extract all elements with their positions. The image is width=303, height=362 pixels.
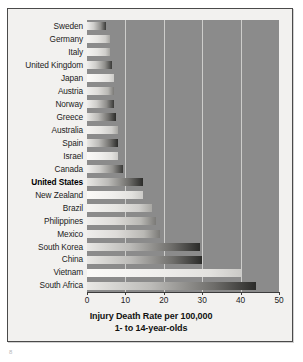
bar — [87, 217, 156, 225]
bar — [87, 230, 160, 238]
bar — [87, 100, 114, 108]
bar — [87, 282, 256, 290]
bar-row — [87, 72, 279, 85]
chart-figure-frame: SwedenGermanyItalyUnited KingdomJapanAus… — [7, 8, 293, 342]
plot-area — [87, 20, 279, 292]
category-label: United Kingdom — [8, 59, 87, 72]
axis-tick-label: 0 — [85, 296, 90, 304]
chart-plot-body: SwedenGermanyItalyUnited KingdomJapanAus… — [8, 9, 294, 299]
category-label: United States — [8, 175, 87, 188]
bar — [87, 35, 110, 43]
bar-row — [87, 279, 279, 292]
category-label: Japan — [8, 72, 87, 85]
category-label: Vietnam — [8, 266, 87, 279]
bar-row — [87, 150, 279, 163]
bars-layer — [87, 20, 279, 292]
category-label: Brazil — [8, 201, 87, 214]
value-axis-title: Injury Death Rate per 100,000 1- to 14-y… — [8, 310, 294, 334]
category-label: Mexico — [8, 227, 87, 240]
bar — [87, 243, 200, 251]
page-footer-mark: 8 — [9, 349, 12, 355]
category-label: South Africa — [8, 279, 87, 292]
category-label: Germany — [8, 33, 87, 46]
bar-row — [87, 162, 279, 175]
bar-row — [87, 175, 279, 188]
category-label: New Zealand — [8, 188, 87, 201]
category-axis-labels: SwedenGermanyItalyUnited KingdomJapanAus… — [8, 20, 87, 292]
axis-tick-label: 10 — [121, 296, 130, 304]
bar-row — [87, 85, 279, 98]
bar — [87, 191, 143, 199]
value-axis-rule — [87, 292, 279, 293]
bar — [87, 61, 112, 69]
bar-row — [87, 59, 279, 72]
category-label: China — [8, 253, 87, 266]
bar — [87, 256, 202, 264]
bar-row — [87, 46, 279, 59]
bar — [87, 74, 114, 82]
axis-tick-label: 50 — [274, 296, 283, 304]
bar — [87, 113, 116, 121]
bar — [87, 178, 143, 186]
bar-row — [87, 124, 279, 137]
bar-row — [87, 98, 279, 111]
bar-row — [87, 240, 279, 253]
category-label: Austria — [8, 85, 87, 98]
bar — [87, 126, 118, 134]
category-label: Philippines — [8, 214, 87, 227]
category-label: South Korea — [8, 240, 87, 253]
bar-row — [87, 33, 279, 46]
bar — [87, 22, 106, 30]
category-label: Italy — [8, 46, 87, 59]
bar-row — [87, 201, 279, 214]
bar — [87, 204, 152, 212]
axis-tick-label: 30 — [198, 296, 207, 304]
category-label: Sweden — [8, 20, 87, 33]
bar-row — [87, 214, 279, 227]
bar-row — [87, 20, 279, 33]
bar-row — [87, 111, 279, 124]
bar — [87, 48, 110, 56]
category-label: Israel — [8, 150, 87, 163]
category-label: Spain — [8, 137, 87, 150]
axis-tick-label: 20 — [159, 296, 168, 304]
bar — [87, 139, 118, 147]
axis-tick-label: 40 — [236, 296, 245, 304]
axis-title-line-1: Injury Death Rate per 100,000 — [8, 310, 294, 322]
bar — [87, 87, 114, 95]
bar-row — [87, 266, 279, 279]
axis-title-line-2: 1- to 14-year-olds — [8, 322, 294, 334]
bar — [87, 269, 241, 277]
category-label: Australia — [8, 124, 87, 137]
bar — [87, 165, 123, 173]
value-axis: 01020304050 — [87, 292, 279, 308]
category-label: Greece — [8, 111, 87, 124]
bar — [87, 152, 118, 160]
bar-row — [87, 227, 279, 240]
bar-row — [87, 137, 279, 150]
category-label: Norway — [8, 98, 87, 111]
category-label: Canada — [8, 162, 87, 175]
bar-row — [87, 188, 279, 201]
bar-row — [87, 253, 279, 266]
